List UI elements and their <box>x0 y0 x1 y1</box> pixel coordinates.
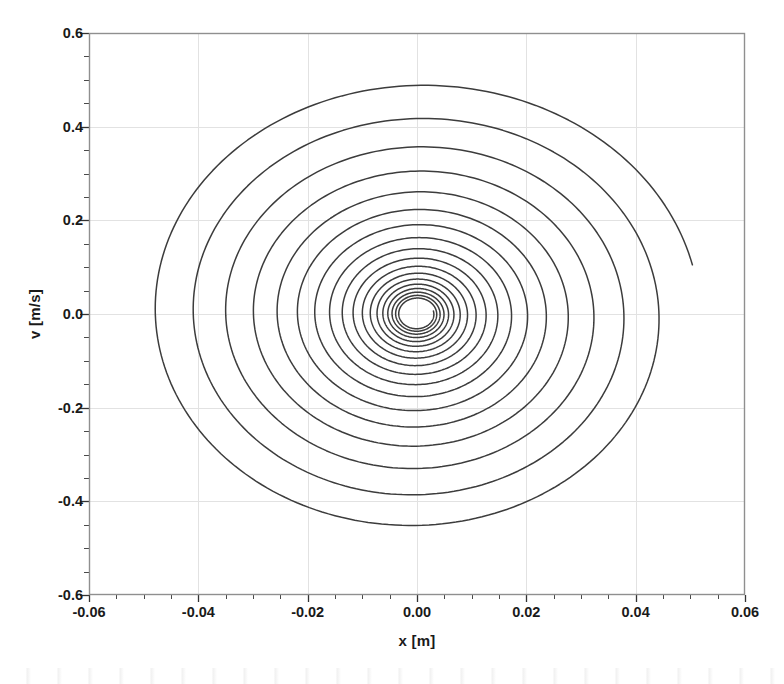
x-tick-label: 0.02 <box>486 604 566 620</box>
x-tick-label: -0.06 <box>49 604 129 620</box>
x-tick-label: 0.06 <box>705 604 784 620</box>
x-tick-label: 0.04 <box>596 604 676 620</box>
x-tick-label: 0.00 <box>377 604 457 620</box>
figure-phase-portrait: -0.6-0.4-0.20.00.20.40.6 -0.06-0.04-0.02… <box>0 0 784 684</box>
plot-canvas <box>0 0 784 684</box>
scan-artifact <box>0 668 784 684</box>
grid-lines <box>89 33 745 595</box>
x-tick-label: -0.04 <box>158 604 238 620</box>
trajectory-curve <box>155 85 692 525</box>
x-tick-label: -0.02 <box>268 604 348 620</box>
y-axis-title: v [m/s] <box>22 33 46 595</box>
x-axis-tick-labels: -0.06-0.04-0.020.000.020.040.06 <box>0 604 784 628</box>
x-axis-title: x [m] <box>89 632 745 649</box>
